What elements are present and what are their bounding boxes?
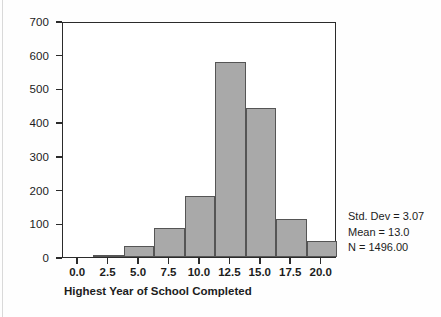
y-axis: 0 100 200 300 400 500 600 700 bbox=[0, 0, 62, 317]
histogram-bar bbox=[124, 246, 154, 257]
histogram-figure: 0 100 200 300 400 500 600 700 bbox=[0, 0, 441, 317]
std-dev-label: Std. Dev = 3.07 bbox=[348, 209, 440, 225]
histogram-bar bbox=[154, 228, 184, 257]
x-tick-label: 17.5 bbox=[279, 266, 301, 278]
x-tick-mark bbox=[137, 258, 139, 264]
plot-area bbox=[62, 22, 336, 258]
x-tick-mark bbox=[107, 258, 109, 264]
y-tick-label: 300 bbox=[30, 151, 50, 163]
histogram-bar bbox=[185, 196, 215, 257]
x-axis-title: Highest Year of School Completed bbox=[64, 285, 252, 297]
y-tick-label: 200 bbox=[30, 185, 50, 197]
x-tick-mark bbox=[320, 258, 322, 264]
x-tick-mark bbox=[76, 258, 78, 264]
histogram-bar bbox=[307, 241, 337, 257]
x-tick-label: 15.0 bbox=[249, 266, 271, 278]
bars-layer bbox=[63, 23, 335, 257]
x-tick-mark bbox=[229, 258, 231, 264]
y-tick-label: 0 bbox=[43, 252, 50, 264]
x-tick-label: 2.5 bbox=[100, 266, 116, 278]
x-tick-mark bbox=[289, 258, 291, 264]
y-tick-label: 500 bbox=[30, 83, 50, 95]
statistics-annotation: Std. Dev = 3.07 Mean = 13.0 N = 1496.00 bbox=[348, 209, 440, 256]
x-tick-label: 5.0 bbox=[130, 266, 146, 278]
x-tick-mark bbox=[198, 258, 200, 264]
x-tick-label: 12.5 bbox=[218, 266, 240, 278]
histogram-bar bbox=[215, 62, 245, 257]
histogram-bar bbox=[246, 108, 276, 257]
x-tick-mark bbox=[168, 258, 170, 264]
y-tick-label: 600 bbox=[30, 50, 50, 62]
y-tick-label: 700 bbox=[30, 16, 50, 28]
x-tick-label: 20.0 bbox=[309, 266, 331, 278]
mean-label: Mean = 13.0 bbox=[348, 225, 440, 241]
histogram-bar bbox=[93, 255, 123, 257]
y-tick-label: 400 bbox=[30, 117, 50, 129]
y-tick-label: 100 bbox=[30, 218, 50, 230]
sample-size-label: N = 1496.00 bbox=[348, 240, 440, 256]
x-tick-label: 10.0 bbox=[188, 266, 210, 278]
x-tick-label: 7.5 bbox=[161, 266, 177, 278]
histogram-bar bbox=[276, 219, 306, 257]
x-tick-mark bbox=[259, 258, 261, 264]
x-tick-label: 0.0 bbox=[69, 266, 85, 278]
